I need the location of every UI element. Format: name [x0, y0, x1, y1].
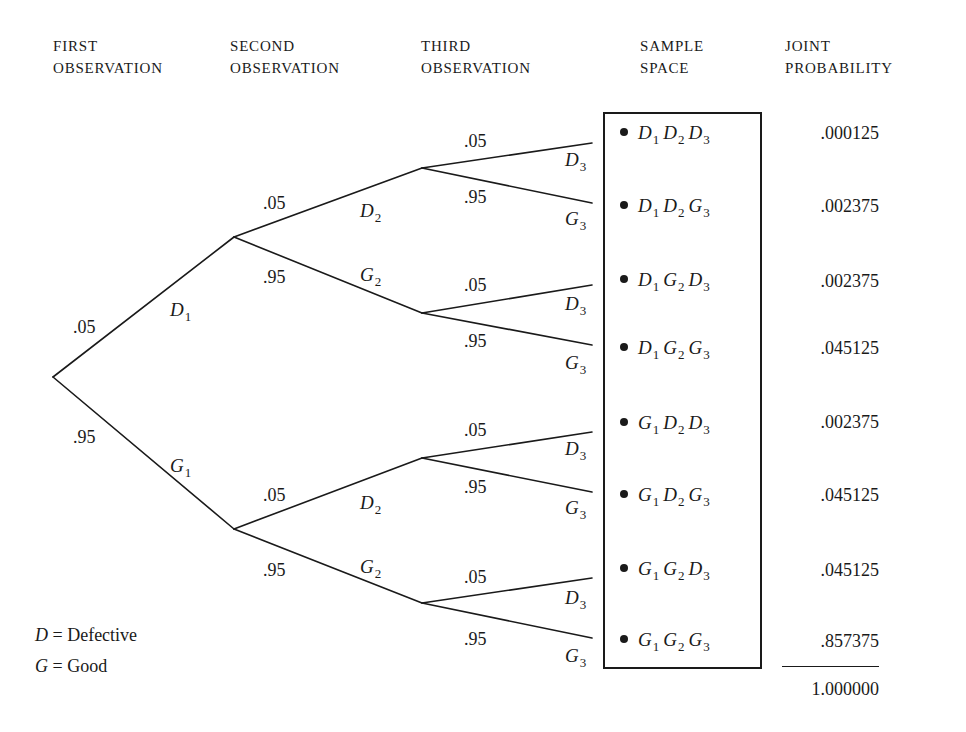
joint-probability-value: .045125 [821, 339, 880, 357]
event-g1: G1 [170, 456, 191, 479]
event-d3-3: D3 [565, 439, 586, 462]
joint-probability-value: .000125 [821, 124, 880, 142]
prob-g1: .95 [73, 428, 96, 446]
prob-g3-3: .95 [464, 478, 487, 496]
event-g2-lower: G2 [360, 557, 381, 580]
prob-d3-2: .05 [464, 276, 487, 294]
event-g3-2: G3 [565, 353, 586, 376]
prob-d3-4: .05 [464, 568, 487, 586]
joint-probability-total: 1.000000 [812, 680, 880, 698]
event-d3-2: D3 [565, 294, 586, 317]
sample-outcome: G1D2G3 [620, 485, 714, 508]
joint-probability-value: .002375 [821, 413, 880, 431]
branch-g1 [53, 377, 234, 529]
event-d3-1: D3 [565, 150, 586, 173]
bullet-icon [620, 418, 628, 426]
joint-probability-value: .002375 [821, 272, 880, 290]
branch-d1d2-g3 [422, 168, 592, 203]
probability-tree [0, 0, 966, 732]
prob-g3-1: .95 [464, 188, 487, 206]
prob-d2-lower: .05 [263, 486, 286, 504]
sample-outcome: D1D2D3 [620, 123, 714, 146]
event-g3-1: G3 [565, 209, 586, 232]
event-d2-upper: D2 [360, 201, 381, 224]
branch-g1d2-g3 [422, 458, 592, 492]
event-d3-4: D3 [565, 588, 586, 611]
sample-outcome: G1G2D3 [620, 559, 714, 582]
branch-d1 [53, 237, 234, 377]
event-g3-4: G3 [565, 646, 586, 669]
joint-probability-value: .045125 [821, 561, 880, 579]
sample-outcome: D1G2D3 [620, 270, 714, 293]
event-d1: D1 [170, 300, 191, 323]
prob-g3-2: .95 [464, 332, 487, 350]
event-g2-upper: G2 [360, 265, 381, 288]
bullet-icon [620, 343, 628, 351]
event-g3-3: G3 [565, 498, 586, 521]
prob-g2-upper: .95 [263, 268, 286, 286]
prob-d1: .05 [73, 318, 96, 336]
joint-probability-value: .045125 [821, 486, 880, 504]
prob-d3-1: .05 [464, 132, 487, 150]
bullet-icon [620, 275, 628, 283]
event-d2-lower: D2 [360, 493, 381, 516]
bullet-icon [620, 564, 628, 572]
joint-probability-value: .857375 [821, 632, 880, 650]
sum-divider [782, 666, 879, 667]
legend-good: G = Good [35, 657, 107, 675]
bullet-icon [620, 128, 628, 136]
legend-defective: D = Defective [35, 626, 137, 644]
joint-probability-value: .002375 [821, 197, 880, 215]
prob-d3-3: .05 [464, 421, 487, 439]
branch-d1g2-g3 [422, 313, 592, 345]
sample-outcome: G1G2G3 [620, 630, 714, 653]
bullet-icon [620, 201, 628, 209]
sample-outcome: D1G2G3 [620, 338, 714, 361]
sample-outcome: G1D2D3 [620, 413, 714, 436]
prob-d2-upper: .05 [263, 194, 286, 212]
bullet-icon [620, 490, 628, 498]
sample-outcome: D1D2G3 [620, 196, 714, 219]
prob-g3-4: .95 [464, 630, 487, 648]
bullet-icon [620, 635, 628, 643]
prob-g2-lower: .95 [263, 561, 286, 579]
